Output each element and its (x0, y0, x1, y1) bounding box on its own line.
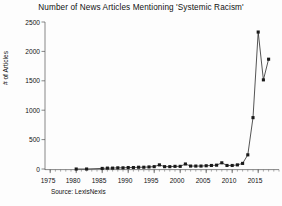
data-point (236, 163, 239, 166)
data-point (215, 164, 218, 167)
data-point (85, 167, 88, 170)
data-point (246, 153, 249, 156)
chart-figure: Number of News Articles Mentioning 'Syst… (0, 0, 282, 206)
data-point (111, 167, 114, 170)
data-point (205, 164, 208, 167)
data-point (173, 165, 176, 168)
data-point (179, 165, 182, 168)
data-point (121, 166, 124, 169)
data-point (189, 165, 192, 168)
data-point (142, 166, 145, 169)
data-point (101, 167, 104, 170)
data-point (158, 163, 161, 166)
data-point (163, 165, 166, 168)
data-point (153, 165, 156, 168)
data-point (210, 164, 213, 167)
data-point (168, 165, 171, 168)
data-point (267, 58, 270, 61)
data-point (147, 165, 150, 168)
data-point (116, 166, 119, 169)
data-point (241, 162, 244, 165)
data-point (262, 78, 265, 81)
data-point (106, 167, 109, 170)
data-point (137, 166, 140, 169)
data-point (127, 166, 130, 169)
data-point (194, 165, 197, 168)
data-point (231, 164, 234, 167)
data-point (220, 161, 223, 164)
y-axis (42, 22, 46, 170)
data-series-line (76, 32, 268, 169)
data-point (75, 167, 78, 170)
data-point (225, 164, 228, 167)
data-point (132, 166, 135, 169)
data-point (199, 165, 202, 168)
plot-canvas (0, 0, 282, 206)
data-point (251, 116, 254, 119)
data-point (184, 162, 187, 165)
data-point (257, 30, 260, 33)
data-series-markers (75, 30, 271, 170)
